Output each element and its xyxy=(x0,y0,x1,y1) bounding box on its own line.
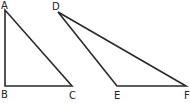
vertex-label-f: F xyxy=(184,90,190,101)
vertex-label-a: A xyxy=(1,0,8,11)
vertex-label-c: C xyxy=(69,90,76,101)
triangles-diagram: A B C D E F xyxy=(0,0,190,108)
vertex-label-b: B xyxy=(1,89,8,100)
vertex-label-d: D xyxy=(52,1,60,12)
triangle-abc xyxy=(5,10,72,86)
vertex-label-e: E xyxy=(114,90,120,101)
triangle-def xyxy=(58,12,186,86)
